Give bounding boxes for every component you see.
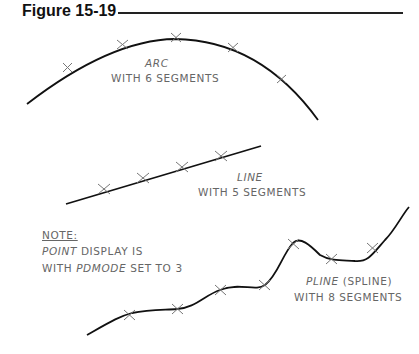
figure-canvas: Figure 15-19	[0, 0, 419, 354]
pline-detail-label: WITH 8 SEGMENTS	[294, 291, 402, 304]
note-heading: NOTE:	[42, 229, 78, 242]
note-line-2: WITH PDMODE SET TO 3	[42, 262, 183, 275]
note-line-1: POINT DISPLAY IS	[42, 245, 143, 258]
note-pdmode-term: PDMODE	[76, 262, 126, 274]
arc-label: ARC	[145, 57, 169, 70]
pline-label: PLINE (SPLINE)	[306, 275, 392, 288]
note-line-1-text: DISPLAY IS	[77, 245, 143, 257]
note-line-2-text: SET TO 3	[126, 262, 183, 274]
line-label: LINE	[237, 171, 263, 184]
note-line-2-prefix: WITH	[42, 262, 76, 274]
note-point-term: POINT	[42, 245, 77, 257]
pline-name: PLINE	[306, 275, 339, 287]
line-detail-label: WITH 5 SEGMENTS	[198, 186, 306, 199]
pline-name-suffix: (SPLINE)	[339, 275, 392, 287]
arc-detail-label: WITH 6 SEGMENTS	[111, 72, 219, 85]
